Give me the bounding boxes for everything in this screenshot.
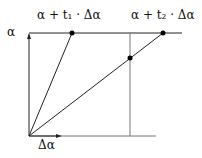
horizontal-arrow-icon [56,134,62,138]
label-alpha: α [7,25,15,39]
intersection-point [128,56,133,61]
point-t1 [70,31,75,36]
line-to-t2 [29,33,163,136]
label-t2-point: α + t₂ · Δα [131,8,195,22]
vertical-arrow-icon [27,33,31,39]
point-t2 [161,31,166,36]
label-delta-alpha: Δα [38,138,55,152]
label-t1-point: α + t₁ · Δα [37,8,101,22]
line-to-t1 [29,33,72,136]
diagram-canvas [0,0,202,158]
